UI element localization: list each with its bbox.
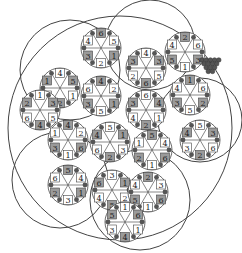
cell-number: 4 — [37, 121, 42, 130]
dark-wedge — [57, 123, 62, 128]
flower-f1: 651234 — [81, 28, 121, 68]
dark-wedge — [90, 108, 95, 113]
cell-number: 4 — [184, 129, 189, 138]
cell-number: 6 — [96, 179, 101, 188]
dark-wedge — [82, 46, 87, 51]
dark-wedge — [206, 152, 211, 157]
cell-number: 1 — [145, 203, 150, 212]
cell-number: 6 — [85, 85, 90, 94]
flower-f9: 426131 — [48, 120, 88, 160]
flower-f10: 513264 — [90, 122, 130, 162]
cell-number: 3 — [52, 144, 57, 153]
cell-number: 6 — [143, 91, 148, 100]
dark-wedge — [152, 80, 157, 85]
dark-wedge — [152, 122, 157, 127]
cell-number: 5 — [70, 77, 75, 86]
dark-wedge — [152, 93, 157, 98]
flower-f5: 421536 — [81, 76, 121, 116]
dark-wedge — [131, 205, 136, 210]
flower-f8: 135462 — [20, 90, 60, 130]
dark-wedge — [75, 86, 80, 91]
cell-number: 5 — [107, 123, 112, 132]
dark-wedge — [189, 152, 194, 157]
dark-wedge — [107, 31, 112, 36]
dark-wedge — [206, 123, 211, 128]
cell-number: 1 — [65, 151, 70, 160]
dark-wedge — [196, 107, 201, 112]
cell-number: 5 — [65, 166, 70, 175]
cell-number: 1 — [37, 91, 42, 100]
cell-number: 2 — [130, 72, 135, 81]
dark-wedge — [74, 197, 79, 202]
cell-number: 6 — [52, 174, 57, 183]
flower-f12: 536234 — [180, 120, 220, 160]
dark-wedge — [140, 220, 145, 225]
cell-number: 5 — [187, 106, 192, 115]
cell-number: 3 — [120, 146, 125, 155]
dark-wedge — [91, 140, 96, 145]
cell-number: 6 — [135, 211, 140, 220]
dark-wedge — [29, 122, 34, 127]
flower-f11: 546121 — [132, 130, 172, 170]
dark-wedge — [82, 94, 87, 99]
cell-number: 1 — [149, 161, 154, 170]
cell-number: 1 — [122, 203, 127, 212]
dark-wedge — [90, 60, 95, 65]
dark-wedge — [74, 123, 79, 128]
cell-number: 3 — [156, 57, 161, 66]
flower-f2: 435623 — [126, 48, 166, 88]
dark-wedge — [200, 50, 205, 55]
dark-wedge — [158, 133, 163, 138]
cell-number: 5 — [111, 37, 116, 46]
cell-number: 4 — [94, 131, 99, 140]
cell-number: 2 — [52, 189, 57, 198]
flower-f16: 161435 — [105, 202, 145, 242]
dark-wedge — [114, 234, 119, 239]
cell-number: 3 — [130, 57, 135, 66]
dark-wedge — [83, 138, 88, 143]
cell-number: 4 — [156, 99, 161, 108]
dark-wedge — [154, 204, 159, 209]
cell-number: 5 — [197, 121, 202, 130]
dark-wedge — [49, 71, 54, 76]
cell-number: 2 — [145, 173, 150, 182]
dark-wedge — [135, 51, 140, 56]
cell-number: 5 — [98, 107, 103, 116]
dark-wedge — [107, 108, 112, 113]
cell-number: 1 — [111, 52, 116, 61]
cell-number: 2 — [111, 85, 116, 94]
dark-wedge — [118, 173, 123, 178]
cell-number: 1 — [187, 76, 192, 85]
dark-wedge — [99, 154, 104, 159]
cell-number: 3 — [50, 99, 55, 108]
flower-puzzle-svg: 6512344356232631544512614215366412431625… — [0, 0, 242, 253]
dark-wedge — [93, 188, 98, 193]
dark-wedge — [90, 31, 95, 36]
cell-number: 2 — [182, 33, 187, 42]
dark-wedge — [154, 175, 159, 180]
dark-wedge — [191, 35, 196, 40]
dark-wedge — [74, 152, 79, 157]
cell-number: 2 — [107, 153, 112, 162]
dark-wedge — [66, 71, 71, 76]
cell-number: 6 — [158, 196, 163, 205]
cell-number: 1 — [136, 139, 141, 148]
cell-number: 1 — [52, 129, 57, 138]
dark-wedge — [107, 60, 112, 65]
dark-wedge — [29, 93, 34, 98]
dark-wedge — [174, 64, 179, 69]
dark-wedge — [21, 108, 26, 113]
cell-number: 6 — [24, 114, 29, 123]
flower-f6: 641243 — [126, 90, 166, 130]
cell-number: 2 — [136, 154, 141, 163]
dark-wedge — [57, 152, 62, 157]
flower-f7: 162534 — [170, 75, 210, 115]
grape-cluster-icon — [200, 58, 221, 74]
dark-wedge — [114, 205, 119, 210]
flower-f3: 263154 — [165, 32, 205, 72]
dark-wedge — [135, 122, 140, 127]
dark-wedge — [152, 51, 157, 56]
dark-wedge — [66, 100, 71, 105]
cell-number: 6 — [195, 41, 200, 50]
cell-number: 5 — [132, 196, 137, 205]
